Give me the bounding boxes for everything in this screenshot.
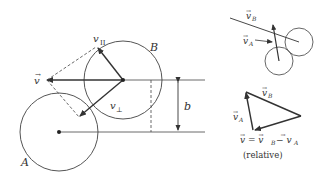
label-v-perp-sub: ⊥ [116,106,123,114]
relation-sub-a: A [293,139,299,146]
center-b [121,78,125,82]
collision-diagram: b v → v II v ⊥ B A v → B v → A v → B v →… [0,0,334,178]
triangle-label-va-sub: A [238,116,244,123]
relation-minus: − v [276,135,292,145]
triangle-va-arrow [246,93,253,130]
inset-label-va-sub: A [248,40,254,47]
inset-vb-line [230,18,299,42]
inset-va-arrow [273,25,279,61]
triangle-label-vb-sub: B [267,92,273,99]
impact-parameter-label: b [184,100,191,113]
inset-label-vb-sub: B [251,15,257,22]
inset-label-va-arrow: → [243,32,248,39]
relative-caption: (relative) [243,150,282,160]
triangle-vb-line [246,92,301,116]
label-circle-a: A [20,156,29,169]
velocity-parallel-arrow [98,48,123,80]
triangle-v-arrow [255,116,301,130]
dashed-v-to-perp [47,80,79,117]
label-circle-b: B [149,41,158,54]
label-v-parallel-sub: II [100,39,106,47]
label-v-parallel: v [93,33,99,44]
center-a [57,130,61,134]
label-v-arrow: → [35,71,41,79]
dashed-v-to-parallel [47,47,96,80]
triangle-label-va-arrow: → [233,108,238,115]
inset-va-pointer [255,40,272,42]
triangle-label-vb-arrow: → [262,84,267,91]
inset-label-vb-arrow: → [246,7,251,14]
